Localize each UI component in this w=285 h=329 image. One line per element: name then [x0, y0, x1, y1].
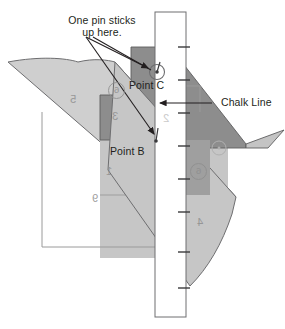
diagram-canvas: One pin sticks up here. Point C Point B …: [0, 0, 285, 329]
callout-pin-note: One pin sticks up here.: [56, 14, 148, 39]
ruler-strip: [155, 12, 190, 317]
diagram-illustration: [0, 0, 285, 329]
callout-line-1: One pin sticks: [68, 14, 135, 26]
callout-line-2: up here.: [82, 26, 121, 38]
label-point-c: Point C: [129, 79, 164, 91]
label-chalk-line: Chalk Line: [221, 96, 272, 108]
label-point-b: Point B: [110, 145, 145, 157]
